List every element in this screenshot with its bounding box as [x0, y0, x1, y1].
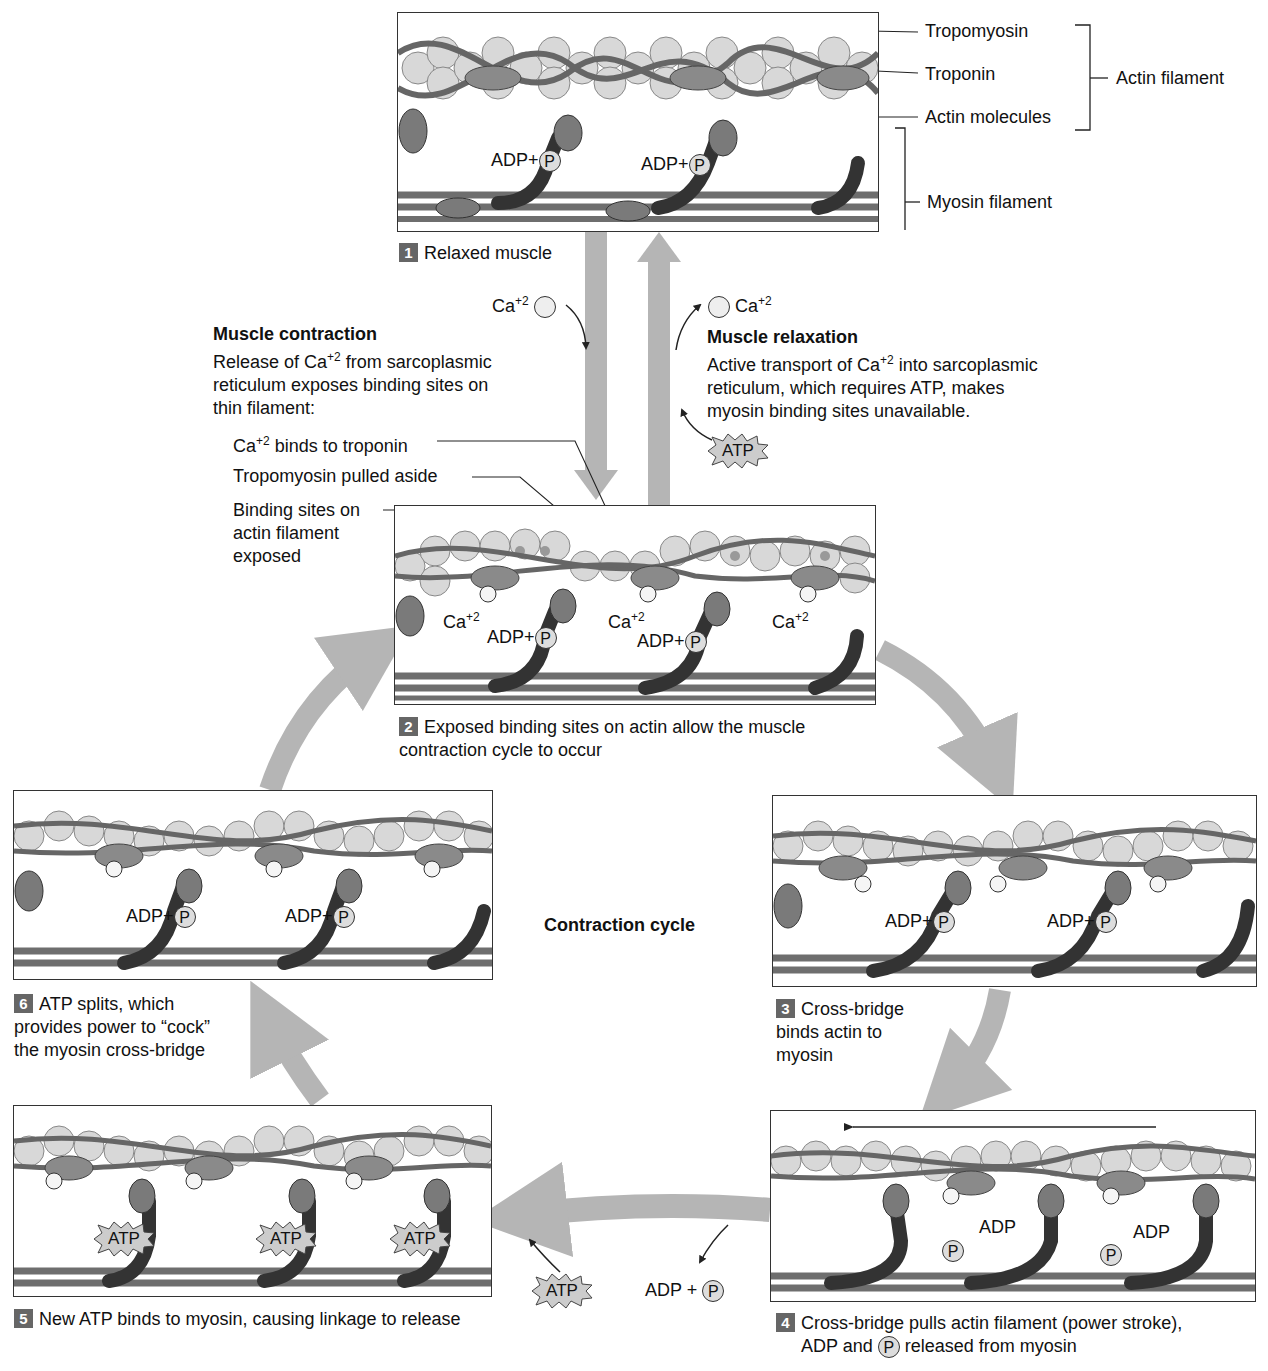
adp-label-4a: ADP	[979, 1216, 1016, 1239]
ca-ion-out: Ca+2	[708, 290, 772, 318]
atp-starburst-5a: ATP	[92, 1221, 156, 1257]
atp-starburst-5b: ATP	[254, 1221, 318, 1257]
actin-bracket	[1075, 25, 1108, 130]
myosin-bracket	[895, 128, 920, 230]
atp-starburst-cycle: ATP	[530, 1273, 594, 1309]
tropomyosin-pulled-label: Tropomyosin pulled aside	[233, 465, 437, 488]
step-5-caption: 5New ATP binds to myosin, causing linkag…	[14, 1308, 484, 1331]
atp-starburst-relaxation: ATP	[706, 433, 770, 469]
up-arrow-relaxation	[637, 232, 681, 507]
adp-p-released: ADP + P	[645, 1279, 724, 1302]
adp-p-label-6a: ADP+P	[126, 905, 196, 928]
adp-p-label-1: ADP+P	[491, 149, 561, 172]
panel-relaxed-muscle: ADP+P ADP+P	[397, 12, 879, 232]
actin-filament	[398, 37, 878, 99]
panel-cross-bridge-binds: ADP+P ADP+P	[772, 795, 1257, 987]
label-tropomyosin: Tropomyosin	[925, 20, 1028, 43]
p-label-4a: P	[942, 1239, 964, 1262]
ca-label-c: Ca+2	[772, 606, 809, 634]
panel-power-stroke: ADP P ADP P	[770, 1110, 1256, 1302]
adp-p-label-3b: ADP+P	[1047, 910, 1117, 933]
panel-atp-splits: ADP+P ADP+P	[13, 790, 493, 980]
adp-label-4b: ADP	[1133, 1221, 1170, 1244]
panel-exposed-binding-sites: Ca+2 Ca+2 Ca+2 ADP+P ADP+P	[394, 505, 876, 705]
step-4-caption: 4Cross-bridge pulls actin filament (powe…	[776, 1312, 1182, 1358]
p-label-4b: P	[1100, 1243, 1122, 1266]
contraction-text: Muscle contraction Release of Ca+2 from …	[213, 323, 492, 420]
step-1-caption: 1Relaxed muscle	[399, 242, 552, 265]
adp-p-label-3a: ADP+P	[885, 910, 955, 933]
down-arrow-contraction	[574, 230, 618, 500]
ca-ion-in: Ca+2	[492, 290, 556, 318]
panel-new-atp-binds: ATP ATP ATP	[13, 1105, 492, 1297]
atp-starburst-5c: ATP	[388, 1221, 452, 1257]
contraction-cycle-label: Contraction cycle	[544, 914, 695, 937]
adp-p-label-6b: ADP+P	[285, 905, 355, 928]
binding-sites-label: Binding sites on actin filament exposed	[233, 499, 360, 568]
step-3-caption: 3Cross-bridge binds actin to myosin	[776, 998, 936, 1067]
adp-p-label-2b: ADP+P	[637, 630, 707, 653]
adp-p-label-2a: ADP+P	[487, 626, 557, 649]
label-actin-filament: Actin filament	[1116, 67, 1224, 90]
adp-p-label-2: ADP+P	[641, 153, 711, 176]
label-actin-molecules: Actin molecules	[925, 106, 1051, 129]
step-2-caption: 2Exposed binding sites on actin allow th…	[399, 716, 879, 762]
ca-binds-troponin-label: Ca+2 binds to troponin	[233, 430, 408, 458]
label-troponin: Troponin	[925, 63, 995, 86]
step-6-caption: 6ATP splits, which provides power to “co…	[14, 993, 214, 1062]
relaxation-text: Muscle relaxation Active transport of Ca…	[707, 326, 1038, 423]
ca-label-a: Ca+2	[443, 606, 480, 634]
label-myosin-filament: Myosin filament	[927, 191, 1052, 214]
